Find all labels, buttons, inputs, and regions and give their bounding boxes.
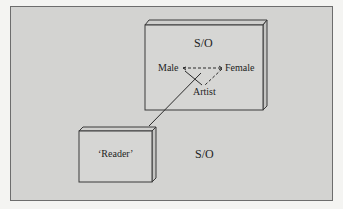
outside-so-label: S/O xyxy=(195,147,214,162)
node-artist: Artist xyxy=(193,86,216,97)
upper-box-title: S/O xyxy=(194,36,213,51)
node-male: Male xyxy=(158,62,179,73)
reader-label: ‘Reader’ xyxy=(98,148,133,159)
node-female: Female xyxy=(225,62,254,73)
diagram-canvas xyxy=(0,0,343,209)
